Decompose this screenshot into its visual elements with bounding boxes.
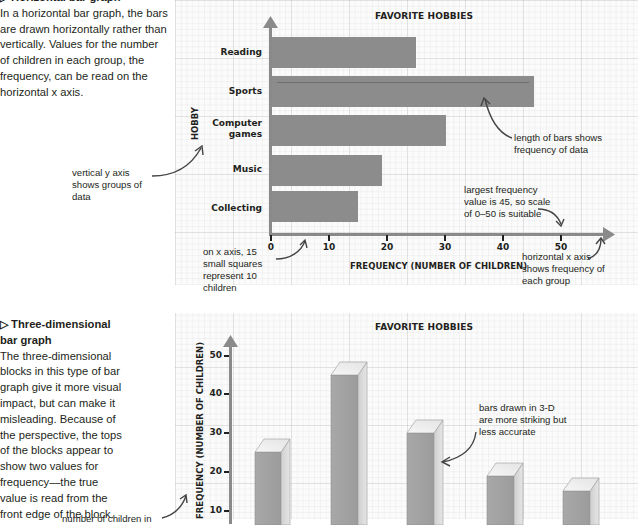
bar3d-sports	[331, 362, 367, 525]
bar3d-collecting	[563, 478, 599, 525]
annotation-bars-3d: bars drawn in 3-D are more striking but …	[479, 402, 569, 438]
annotation-arrow-icon	[160, 493, 190, 519]
annotation-arrow-icon	[438, 430, 478, 466]
bar3d-reading	[255, 439, 290, 525]
bar3d-music	[487, 463, 523, 525]
